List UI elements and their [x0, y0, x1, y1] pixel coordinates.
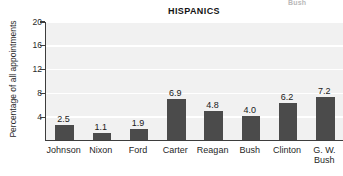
bar-value-label: 1.1 — [82, 123, 119, 132]
x-tick-label: Nixon — [82, 145, 119, 155]
bar-chart-figure: Bush HISPANICS Percentage of all appoint… — [0, 0, 343, 176]
x-tick-label: Reagan — [194, 145, 231, 155]
chart-title: HISPANICS — [45, 6, 343, 16]
bar-value-label: 6.9 — [157, 89, 194, 98]
x-tick-label: Carter — [157, 145, 194, 155]
x-tick-label: Clinton — [269, 145, 306, 155]
y-tick-label: 4 — [18, 113, 42, 122]
x-tick-label: G. W. Bush — [306, 145, 343, 166]
bar — [242, 116, 261, 140]
y-tick-label: 12 — [18, 65, 42, 74]
bar — [316, 97, 335, 140]
gridline — [46, 69, 343, 71]
y-tick-label: 16 — [18, 41, 42, 50]
bar-value-label: 4.0 — [231, 106, 268, 115]
bar-value-label: 6.2 — [269, 93, 306, 102]
x-tick-label: Johnson — [45, 145, 82, 155]
gridline — [46, 21, 343, 23]
y-tick-label: 20 — [18, 18, 42, 27]
bar-value-label: 1.9 — [120, 119, 157, 128]
y-axis-title: Percentage of all appointments — [8, 14, 18, 144]
bar — [204, 111, 223, 140]
bar-value-label: 7.2 — [306, 87, 343, 96]
bar — [130, 129, 149, 140]
gridline — [46, 45, 343, 47]
y-tick-label: 8 — [18, 89, 42, 98]
x-tick-label: Bush — [231, 145, 268, 155]
bar — [55, 125, 74, 140]
x-tick-label: Ford — [120, 145, 157, 155]
bar-value-label: 2.5 — [45, 115, 82, 124]
bar — [279, 103, 298, 140]
bar-value-label: 4.8 — [194, 101, 231, 110]
bar — [93, 133, 112, 140]
gridline — [46, 116, 343, 118]
bar — [167, 99, 186, 140]
